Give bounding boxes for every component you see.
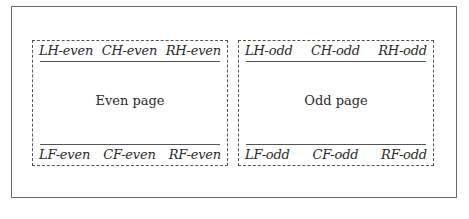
odd-page-box: LH-odd CH-odd RH-odd Odd page LF-odd CF-… xyxy=(238,40,434,166)
even-left-footer: LF-even xyxy=(39,147,90,162)
odd-right-header: RH-odd xyxy=(378,43,427,58)
odd-footer-row: LF-odd CF-odd RF-odd xyxy=(245,147,427,162)
odd-header-row: LH-odd CH-odd RH-odd xyxy=(245,43,427,58)
even-right-header: RH-even xyxy=(166,43,221,58)
even-footer-rule xyxy=(40,144,220,145)
even-header-rule xyxy=(40,61,220,62)
even-center-footer: CF-even xyxy=(103,147,155,162)
odd-footer-rule xyxy=(246,144,426,145)
even-page-label: Even page xyxy=(33,93,227,108)
odd-header-rule xyxy=(246,61,426,62)
odd-left-header: LH-odd xyxy=(245,43,293,58)
odd-left-footer: LF-odd xyxy=(245,147,290,162)
odd-center-header: CH-odd xyxy=(311,43,360,58)
odd-page-label: Odd page xyxy=(239,93,433,108)
even-page-box: LH-even CH-even RH-even Even page LF-eve… xyxy=(32,40,228,166)
even-header-row: LH-even CH-even RH-even xyxy=(39,43,221,58)
odd-right-footer: RF-odd xyxy=(381,147,427,162)
even-footer-row: LF-even CF-even RF-even xyxy=(39,147,221,162)
even-center-header: CH-even xyxy=(102,43,157,58)
even-left-header: LH-even xyxy=(39,43,93,58)
odd-center-footer: CF-odd xyxy=(312,147,358,162)
even-right-footer: RF-even xyxy=(169,147,221,162)
